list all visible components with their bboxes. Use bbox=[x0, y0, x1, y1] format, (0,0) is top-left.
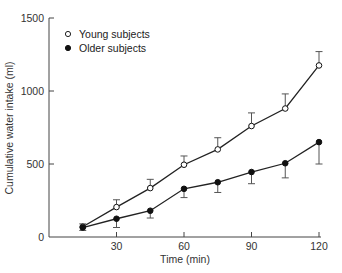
filled-circle-marker-icon bbox=[282, 160, 288, 166]
legend-open-circle-icon bbox=[65, 31, 70, 36]
series-line bbox=[83, 142, 319, 227]
x-tick-label: 30 bbox=[111, 240, 123, 252]
x-tick-label: 90 bbox=[246, 240, 258, 252]
legend: Young subjects Older subjects bbox=[65, 28, 149, 54]
x-tick-label: 60 bbox=[178, 240, 190, 252]
open-circle-marker-icon bbox=[282, 106, 288, 112]
open-circle-marker-icon bbox=[316, 63, 322, 69]
series-young bbox=[79, 52, 322, 230]
y-tick-label: 500 bbox=[26, 158, 44, 170]
data-series bbox=[79, 52, 322, 231]
open-circle-marker-icon bbox=[147, 185, 153, 191]
legend-young-label: Young subjects bbox=[79, 28, 150, 40]
filled-circle-marker-icon bbox=[147, 208, 153, 214]
x-axis-title: Time (min) bbox=[160, 253, 210, 265]
x-tick-label: 120 bbox=[310, 240, 328, 252]
legend-older-label: Older subjects bbox=[79, 42, 146, 54]
filled-circle-marker-icon bbox=[80, 225, 86, 231]
filled-circle-marker-icon bbox=[316, 139, 322, 145]
y-tick-label: 1500 bbox=[21, 12, 45, 24]
open-circle-marker-icon bbox=[215, 147, 221, 153]
filled-circle-marker-icon bbox=[114, 216, 120, 222]
series-older bbox=[79, 139, 322, 230]
y-tick-label: 1000 bbox=[21, 85, 45, 97]
open-circle-marker-icon bbox=[249, 123, 255, 129]
open-circle-marker-icon bbox=[114, 204, 120, 210]
line-chart: 050010001500306090120 Young subjects Old… bbox=[0, 0, 342, 273]
legend-filled-circle-icon bbox=[65, 45, 70, 50]
series-line bbox=[83, 65, 319, 226]
filled-circle-marker-icon bbox=[249, 169, 255, 175]
y-axis-title: Cumulative water intake (ml) bbox=[3, 61, 15, 194]
open-circle-marker-icon bbox=[181, 162, 187, 168]
filled-circle-marker-icon bbox=[215, 179, 221, 185]
filled-circle-marker-icon bbox=[181, 186, 187, 192]
y-tick-label: 0 bbox=[38, 231, 44, 243]
